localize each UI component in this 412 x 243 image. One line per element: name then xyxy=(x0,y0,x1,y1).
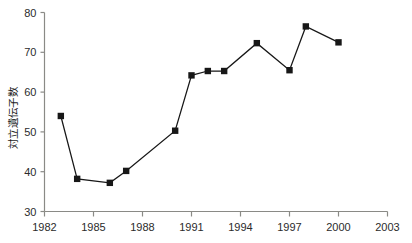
y-tick-label: 40 xyxy=(24,166,36,178)
x-tick-label: 1988 xyxy=(130,221,154,233)
y-axis-label: 対立遺伝子数 xyxy=(7,86,19,149)
data-point-marker xyxy=(303,23,309,29)
data-point-marker xyxy=(221,68,227,74)
y-tick-label: 70 xyxy=(24,46,36,58)
data-point-marker xyxy=(123,168,129,174)
data-point-marker xyxy=(205,68,211,74)
data-series xyxy=(58,23,342,186)
y-axis-ticks: 304050607080 xyxy=(24,7,44,218)
line-chart: 304050607080 198219851988199119941997200… xyxy=(0,0,412,243)
x-tick-label: 1994 xyxy=(228,221,252,233)
data-point-marker xyxy=(107,180,113,186)
y-axis-label-text: 対立遺伝子数 xyxy=(7,86,19,149)
y-tick-label: 50 xyxy=(24,126,36,138)
x-tick-label: 1985 xyxy=(81,221,105,233)
data-point-marker xyxy=(254,40,260,46)
x-tick-label: 1991 xyxy=(179,221,203,233)
x-tick-label: 1982 xyxy=(32,221,56,233)
x-tick-label: 2003 xyxy=(375,221,399,233)
x-tick-label: 2000 xyxy=(326,221,350,233)
x-tick-label: 1997 xyxy=(277,221,301,233)
data-point-marker xyxy=(286,67,292,73)
series-markers xyxy=(58,23,342,186)
data-point-marker xyxy=(188,72,194,78)
y-tick-label: 30 xyxy=(24,206,36,218)
series-line xyxy=(61,26,339,182)
data-point-marker xyxy=(172,128,178,134)
x-axis-ticks: 19821985198819911994199720002003 xyxy=(32,212,399,233)
data-point-marker xyxy=(335,39,341,45)
chart-container: 304050607080 198219851988199119941997200… xyxy=(0,0,412,243)
data-point-marker xyxy=(74,176,80,182)
y-tick-label: 60 xyxy=(24,86,36,98)
y-tick-label: 80 xyxy=(24,7,36,19)
data-point-marker xyxy=(58,113,64,119)
